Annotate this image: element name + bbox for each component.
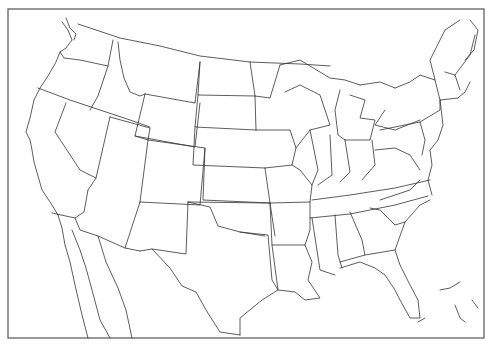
map-frame [8,9,484,338]
outline-map [0,0,493,350]
